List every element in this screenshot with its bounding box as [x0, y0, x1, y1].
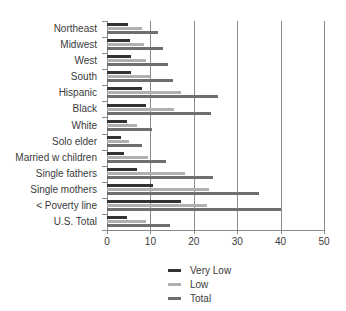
bar-very-low — [107, 136, 121, 139]
bar-very-low — [107, 71, 131, 74]
bar-very-low — [107, 152, 124, 155]
bar-total — [107, 31, 158, 34]
y-tick-mark — [102, 53, 107, 54]
bar-low — [107, 108, 174, 111]
legend-label: Low — [190, 278, 208, 292]
y-axis-label: < Poverty line — [36, 201, 97, 211]
bar-low — [107, 27, 142, 30]
bar-total — [107, 208, 281, 211]
bar-very-low — [107, 184, 153, 187]
legend-swatch-icon — [168, 283, 181, 286]
bar-total — [107, 160, 166, 163]
bar-group — [107, 166, 324, 182]
bar-group — [107, 85, 324, 101]
bar-group — [107, 198, 324, 214]
bar-low — [107, 140, 129, 143]
bar-group — [107, 37, 324, 53]
bar-group — [107, 117, 324, 133]
bar-low — [107, 156, 148, 159]
y-axis-label: Midwest — [60, 40, 97, 50]
bar-low — [107, 91, 181, 94]
bar-total — [107, 95, 218, 98]
x-tick-mark-20 — [194, 230, 195, 234]
bar-low — [107, 220, 146, 223]
bar-very-low — [107, 104, 146, 107]
y-tick-mark — [102, 166, 107, 167]
x-tick-mark-40 — [281, 230, 282, 234]
bar-total — [107, 144, 142, 147]
legend-swatch-icon — [168, 269, 181, 272]
y-axis-label: Single fathers — [36, 169, 97, 179]
y-axis-labels: NortheastMidwestWestSouthHispanicBlackWh… — [0, 21, 101, 230]
x-tick-mark-10 — [150, 230, 151, 234]
y-axis-label: Solo elder — [52, 137, 97, 147]
y-tick-mark — [102, 117, 107, 118]
bar-group — [107, 101, 324, 117]
bar-very-low — [107, 200, 181, 203]
bar-group — [107, 214, 324, 230]
bar-total — [107, 192, 259, 195]
plot-area — [107, 21, 324, 230]
bar-very-low — [107, 216, 127, 219]
y-axis-label: South — [71, 72, 97, 82]
bar-total — [107, 224, 170, 227]
legend-label: Very Low — [190, 264, 231, 278]
bar-total — [107, 79, 173, 82]
y-axis-label: Married w children — [15, 153, 97, 163]
bar-very-low — [107, 23, 128, 26]
y-tick-mark — [102, 85, 107, 86]
x-axis-line — [107, 230, 324, 231]
legend-swatch-icon — [168, 297, 181, 300]
y-tick-mark — [102, 21, 107, 22]
bar-total — [107, 63, 168, 66]
y-tick-mark — [102, 182, 107, 183]
y-tick-mark — [102, 150, 107, 151]
x-tick-label-40: 40 — [266, 236, 296, 247]
bar-very-low — [107, 87, 142, 90]
bar-low — [107, 59, 146, 62]
bar-low — [107, 188, 209, 191]
bar-chart: NortheastMidwestWestSouthHispanicBlackWh… — [0, 0, 346, 311]
y-axis-label: Black — [73, 104, 97, 114]
x-tick-label-10: 10 — [135, 236, 165, 247]
bar-low — [107, 204, 207, 207]
x-tick-mark-0 — [107, 230, 108, 234]
x-tick-label-50: 50 — [309, 236, 339, 247]
bar-total — [107, 47, 163, 50]
y-tick-mark — [102, 101, 107, 102]
bar-group — [107, 182, 324, 198]
y-tick-mark — [102, 69, 107, 70]
bar-group — [107, 21, 324, 37]
bar-total — [107, 176, 213, 179]
gridline-50 — [324, 21, 325, 230]
y-axis-label: Northeast — [54, 24, 97, 34]
y-axis-label: West — [74, 56, 97, 66]
bar-group — [107, 150, 324, 166]
bar-very-low — [107, 120, 127, 123]
bar-very-low — [107, 55, 131, 58]
x-tick-mark-50 — [324, 230, 325, 234]
x-tick-mark-30 — [237, 230, 238, 234]
bar-low — [107, 172, 185, 175]
x-tick-label-20: 20 — [179, 236, 209, 247]
bar-group — [107, 69, 324, 85]
legend-item: Low — [168, 278, 288, 292]
bar-low — [107, 124, 137, 127]
bar-low — [107, 75, 150, 78]
bar-total — [107, 112, 211, 115]
legend-item: Very Low — [168, 264, 288, 278]
bar-group — [107, 134, 324, 150]
y-axis-label: White — [71, 121, 97, 131]
y-tick-mark — [102, 37, 107, 38]
x-tick-label-0: 0 — [92, 236, 122, 247]
y-axis-label: Single mothers — [30, 185, 97, 195]
bar-group — [107, 53, 324, 69]
bar-very-low — [107, 39, 130, 42]
y-axis-label: U.S. Total — [54, 217, 97, 227]
legend-item: Total — [168, 292, 288, 306]
y-tick-mark — [102, 134, 107, 135]
y-axis-label: Hispanic — [59, 88, 97, 98]
bar-very-low — [107, 168, 137, 171]
y-tick-mark — [102, 198, 107, 199]
y-tick-mark — [102, 214, 107, 215]
